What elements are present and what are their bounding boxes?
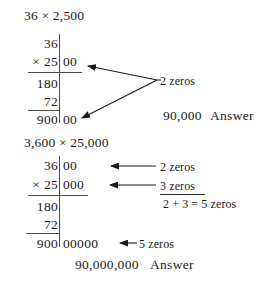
example-2-zeros-annotation-top: 2 zeros <box>160 160 195 175</box>
example-1-product: 900 <box>8 112 58 128</box>
example-2-multiplier: × 25 <box>8 177 58 193</box>
example-1-zeros-annotation: 2 zeros <box>160 74 195 89</box>
example-2-partial-product-2: 72 <box>8 217 58 233</box>
example-1-partial-product-2: 72 <box>8 94 58 110</box>
example-2-product-zeros: 00000 <box>63 236 98 252</box>
example-2-zeros-annotation-mid-underline <box>160 194 205 195</box>
example-1-multiplicand: 36 <box>8 36 58 52</box>
example-2-answer-value: 90,000,000 <box>75 257 139 273</box>
example-2-multiplier-zeros: 000 <box>63 177 84 193</box>
example-2-vertical-separator <box>59 156 60 247</box>
example-1-rule-under-partials <box>28 110 59 111</box>
example-1-vertical-separator <box>59 34 60 123</box>
example-1-arrow-lower <box>82 80 157 118</box>
example-1-rule-under-multiplier <box>28 72 82 73</box>
example-1-heading: 36 × 2,500 <box>24 8 84 24</box>
example-2-zeros-annotation-bottom: 5 zeros <box>139 237 174 252</box>
example-2-multiplicand-zeros: 00 <box>63 158 77 174</box>
example-1-answer-label: Answer <box>210 108 254 124</box>
example-2-product: 900 <box>8 236 58 252</box>
example-1-multiplier-zeros: 00 <box>63 54 77 70</box>
example-2-rule-under-multiplier <box>28 195 88 196</box>
example-2-answer-label: Answer <box>150 257 194 273</box>
example-1-product-zeros: 00 <box>63 112 77 128</box>
example-1-multiplier: × 25 <box>8 54 58 70</box>
example-2-multiplicand: 36 <box>8 158 58 174</box>
example-2-zeros-annotation-mid: 3 zeros <box>160 179 195 194</box>
example-1-answer-value: 90,000 <box>163 108 202 124</box>
example-1-partial-product-1: 180 <box>8 76 58 92</box>
example-2-partial-product-1: 180 <box>8 199 58 215</box>
example-1-arrow-upper <box>88 66 157 80</box>
example-2-rule-under-partials <box>26 233 59 234</box>
example-2-zeros-sum-annotation: 2 + 3 = 5 zeros <box>163 197 236 212</box>
worksheet-page: 36 × 2,500 36 × 25 180 72 900 00 00 2 ze… <box>0 0 265 282</box>
example-2-heading: 3,600 × 25,000 <box>24 135 109 151</box>
